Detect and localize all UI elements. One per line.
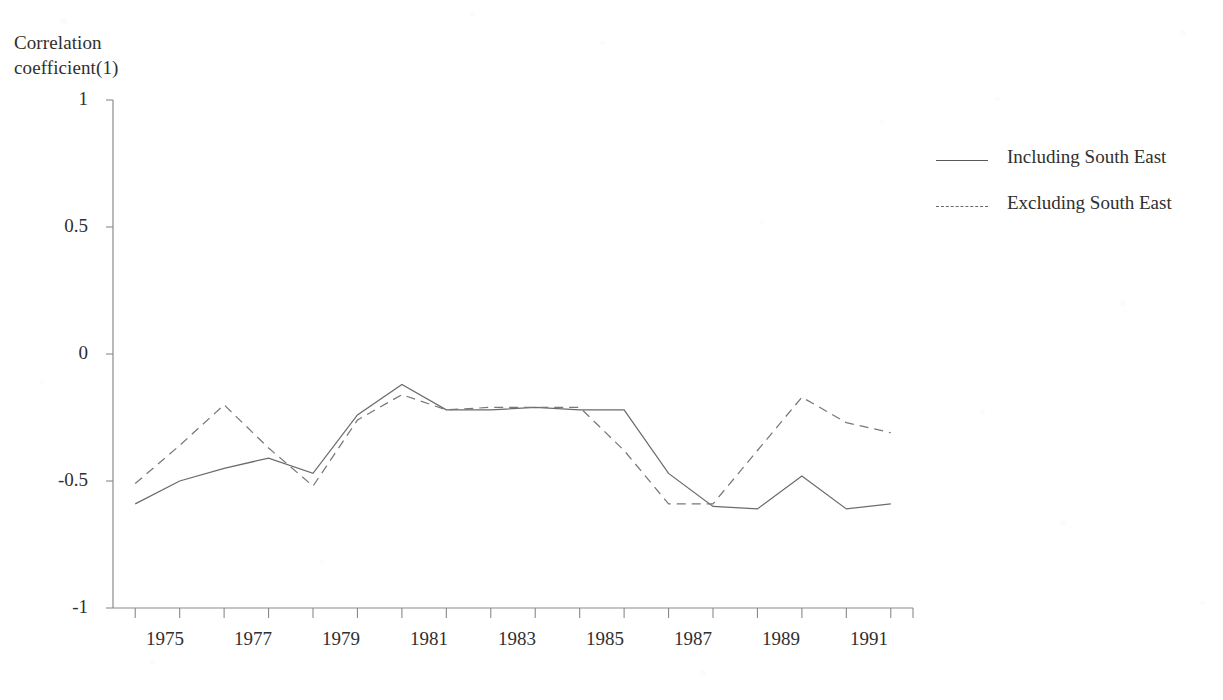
series-line-excluding-south-east xyxy=(135,395,891,504)
x-tick-label-1985: 1985 xyxy=(565,628,645,650)
plot-area xyxy=(0,0,1223,700)
x-tick-label-1981: 1981 xyxy=(389,628,469,650)
axis-lines xyxy=(113,100,913,608)
x-tick-label-1983: 1983 xyxy=(477,628,557,650)
y-tick-marks xyxy=(106,100,113,608)
y-tick-label-0.5: 0.5 xyxy=(28,215,88,237)
y-axis-title: Correlation coefficient(1) xyxy=(14,30,118,80)
legend-item-including-south-east: Including South East xyxy=(936,146,1216,192)
x-tick-label-1975: 1975 xyxy=(125,628,205,650)
y-tick-label-neg0.5: -0.5 xyxy=(28,469,88,491)
x-tick-label-1991: 1991 xyxy=(829,628,909,650)
x-tick-label-1979: 1979 xyxy=(301,628,381,650)
series-line-including-south-east xyxy=(135,384,891,508)
legend-label-excluding-south-east: Excluding South East xyxy=(1007,192,1172,214)
legend-item-excluding-south-east: Excluding South East xyxy=(936,192,1216,238)
legend-swatch-dashed-line-icon xyxy=(936,206,988,209)
y-tick-label-0: 0 xyxy=(28,342,88,364)
legend-swatch-solid-line-icon xyxy=(936,160,988,163)
legend-label-including-south-east: Including South East xyxy=(1007,146,1166,168)
x-tick-label-1977: 1977 xyxy=(213,628,293,650)
chart-legend: Including South East Excluding South Eas… xyxy=(936,146,1216,238)
x-tick-label-1989: 1989 xyxy=(741,628,821,650)
x-tick-label-1987: 1987 xyxy=(653,628,733,650)
chart-figure: Correlation coefficient(1) 1 0.5 0 -0.5 … xyxy=(0,0,1223,700)
x-tick-marks xyxy=(135,608,913,618)
y-tick-label-neg1: -1 xyxy=(28,596,88,618)
y-tick-label-1: 1 xyxy=(28,88,88,110)
